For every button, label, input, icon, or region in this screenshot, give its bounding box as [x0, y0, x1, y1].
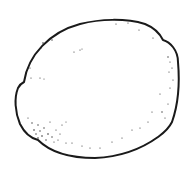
lemon-outline — [16, 20, 179, 158]
illustration-canvas — [0, 0, 195, 170]
lemon-drawing — [0, 0, 195, 170]
